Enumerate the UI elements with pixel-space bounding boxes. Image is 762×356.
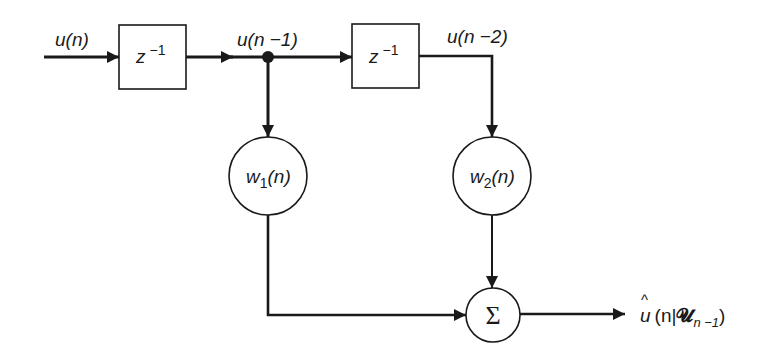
output-label: ^ u(n|𝓤n −1) bbox=[640, 291, 725, 330]
sigma-label: Σ bbox=[485, 301, 500, 330]
delay-block-1: z−1 bbox=[119, 25, 186, 89]
weight-node-2: w2(n) bbox=[453, 137, 531, 215]
input-label: u(n) bbox=[55, 29, 89, 50]
arrow-weight1-to-summer bbox=[268, 215, 466, 315]
delay-block-2: z−1 bbox=[352, 24, 419, 88]
predictor-block-diagram: u(n) z−1 u(n −1) z−1 u(n −2) w1(n) w2(n)… bbox=[0, 0, 762, 356]
arrow-delay2-to-weight2 bbox=[419, 56, 492, 137]
tap-1-label: u(n −1) bbox=[237, 29, 298, 50]
summer-node: Σ bbox=[466, 288, 520, 342]
output-label-text: u(n|𝓤n −1) bbox=[640, 305, 725, 330]
input-signal: u(n) bbox=[44, 29, 119, 57]
weight-node-1: w1(n) bbox=[229, 137, 307, 215]
tap-2-label: u(n −2) bbox=[447, 26, 508, 47]
